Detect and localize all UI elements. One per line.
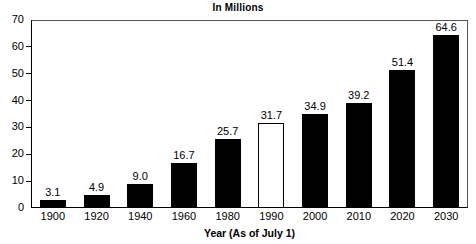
x-axis-tick-label-1940: 1940	[118, 210, 162, 226]
y-axis-tick-label: 20	[12, 147, 24, 159]
x-axis-tick-label-2020: 2020	[381, 210, 425, 226]
bar-2000[interactable]	[302, 114, 328, 208]
bar-group-2000[interactable]: 34.9	[293, 20, 337, 208]
x-axis-tick-label-1920: 1920	[75, 210, 119, 226]
bar-group-1960[interactable]: 16.7	[162, 20, 206, 208]
bar-value-label: 3.1	[45, 186, 60, 198]
bar-value-label: 64.6	[435, 21, 456, 33]
bar-1900[interactable]	[40, 200, 66, 208]
x-axis-tick-label-2010: 2010	[337, 210, 381, 226]
bar-group-2020[interactable]: 51.4	[381, 20, 425, 208]
x-axis-tick-label-1980: 1980	[206, 210, 250, 226]
bar-1960[interactable]	[171, 163, 197, 208]
bar-value-label: 4.9	[89, 181, 104, 193]
chart-screenshot: In Millions 010203040506070 3.14.99.016.…	[0, 0, 476, 244]
bar-2010[interactable]	[346, 103, 372, 208]
y-axis-tick-label: 50	[12, 67, 24, 79]
bar-group-1980[interactable]: 25.7	[206, 20, 250, 208]
y-axis-tick-label: 0	[18, 201, 24, 213]
bar-group-1990[interactable]: 31.7	[250, 20, 294, 208]
bar-value-label: 9.0	[133, 170, 148, 182]
x-axis-tick-label-1900: 1900	[31, 210, 75, 226]
bar-1980[interactable]	[215, 139, 241, 208]
y-axis-tick-label: 30	[12, 120, 24, 132]
x-axis-tick-label-2030: 2030	[424, 210, 468, 226]
y-axis-tick-label: 10	[12, 174, 24, 186]
bar-value-label: 16.7	[173, 149, 194, 161]
bar-value-label: 31.7	[261, 109, 282, 121]
bar-value-label: 39.2	[348, 89, 369, 101]
y-axis: 010203040506070	[0, 20, 31, 208]
bar-value-label: 25.7	[217, 125, 238, 137]
x-axis-tick-label-1960: 1960	[162, 210, 206, 226]
y-axis-tick-label: 70	[12, 13, 24, 25]
bar-group-1920[interactable]: 4.9	[75, 20, 119, 208]
bar-group-1900[interactable]: 3.1	[31, 20, 75, 208]
bar-2020[interactable]	[389, 70, 415, 208]
bar-1940[interactable]	[127, 184, 153, 208]
y-axis-tick-label: 40	[12, 94, 24, 106]
y-axis-tick-label: 60	[12, 40, 24, 52]
bar-value-label: 34.9	[304, 100, 325, 112]
bar-2030[interactable]	[433, 35, 459, 208]
x-axis-tick-label-2000: 2000	[293, 210, 337, 226]
x-axis-tick-label-1990: 1990	[250, 210, 294, 226]
x-axis-title: Year (As of July 1)	[31, 227, 468, 239]
bar-series: 3.14.99.016.725.731.734.939.251.464.6	[31, 20, 468, 208]
bar-group-2010[interactable]: 39.2	[337, 20, 381, 208]
chart-title: In Millions	[0, 2, 476, 13]
bar-value-label: 51.4	[392, 56, 413, 68]
x-axis-tick-labels: 1900192019401960198019902000201020202030	[31, 210, 468, 226]
bar-group-1940[interactable]: 9.0	[118, 20, 162, 208]
bar-group-2030[interactable]: 64.6	[424, 20, 468, 208]
bar-1920[interactable]	[84, 195, 110, 208]
bar-1990[interactable]	[258, 123, 284, 208]
